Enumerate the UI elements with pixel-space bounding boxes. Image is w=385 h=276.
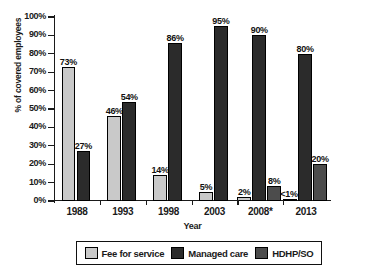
x-axis-category-label: 1993	[100, 206, 146, 217]
y-axis-tick-label: 80%	[8, 49, 46, 58]
bar: <1%	[283, 199, 297, 201]
x-axis-tick	[100, 200, 101, 205]
bar-group: 5%95%	[192, 17, 238, 201]
y-axis-tick-label: 0%	[8, 196, 46, 205]
legend-swatch-icon	[171, 247, 184, 259]
x-axis-category-label: 2013	[283, 206, 329, 217]
bar-value-label: 20%	[312, 155, 329, 164]
bar-value-label: 73%	[60, 58, 77, 67]
bar: 46%	[107, 116, 121, 201]
bar-group: 2%90%8%	[237, 17, 283, 201]
x-axis-category-label: 2003	[192, 206, 238, 217]
bar: 8%	[267, 186, 281, 201]
legend-item[interactable]: HDHP/SO	[255, 247, 313, 259]
bar: 5%	[199, 192, 213, 201]
bar: 73%	[62, 67, 76, 201]
bar: 90%	[252, 35, 266, 201]
x-axis-tick	[192, 200, 193, 205]
bar: 80%	[298, 54, 312, 201]
bar-value-label: 5%	[200, 183, 212, 192]
chart-legend: Fee for serviceManaged careHDHP/SO	[76, 241, 322, 265]
bar-value-label: 46%	[106, 107, 123, 116]
bar-value-label: 54%	[121, 93, 138, 102]
y-axis-tick-label: 70%	[8, 67, 46, 76]
bar: 20%	[313, 164, 327, 201]
bar: 54%	[122, 102, 136, 201]
y-axis-tick-label: 20%	[8, 159, 46, 168]
legend-item[interactable]: Managed care	[171, 247, 248, 259]
bar-group: 46%54%	[100, 17, 146, 201]
bar-value-label: 8%	[268, 177, 280, 186]
bar: 95%	[214, 26, 228, 201]
bar-value-label: 86%	[167, 34, 184, 43]
x-axis-tick	[146, 200, 147, 205]
y-axis-tick-label: 50%	[8, 104, 46, 113]
bar-value-label: 27%	[75, 142, 92, 151]
y-axis-tick-label: 40%	[8, 122, 46, 131]
bar: 27%	[77, 151, 91, 201]
x-axis-tick	[237, 200, 238, 205]
plot-area: 73%27%46%54%14%86%5%95%2%90%8%<1%80%20%	[54, 17, 329, 201]
y-axis-tick-label: 60%	[8, 86, 46, 95]
bar-value-label: 95%	[212, 17, 229, 26]
bar-group: 14%86%	[146, 17, 192, 201]
bar-value-label: 2%	[238, 188, 250, 197]
legend-label: HDHP/SO	[272, 248, 313, 259]
legend-item[interactable]: Fee for service	[85, 247, 165, 259]
bar-value-label: 14%	[152, 166, 169, 175]
y-axis-tick-label: 10%	[8, 178, 46, 187]
legend-label: Fee for service	[102, 248, 165, 259]
y-axis-tick-label: 90%	[8, 30, 46, 39]
bar-group: 73%27%	[54, 17, 100, 201]
bar: 86%	[168, 43, 182, 201]
bar: 2%	[237, 197, 251, 201]
bar-value-label: 80%	[297, 45, 314, 54]
bar-chart: % of covered employees 0%10%20%30%40%50%…	[0, 0, 385, 276]
bar-value-label: 90%	[251, 26, 268, 35]
x-axis-category-label: 1988	[54, 206, 100, 217]
legend-swatch-icon	[255, 247, 268, 259]
x-axis-category-label: 1998	[146, 206, 192, 217]
legend-swatch-icon	[85, 247, 98, 259]
x-axis-category-label: 2008*	[237, 206, 283, 217]
legend-label: Managed care	[188, 248, 248, 259]
y-axis-tick-label: 30%	[8, 141, 46, 150]
y-axis-tick-label: 100%	[8, 12, 46, 21]
bar-group: <1%80%20%	[283, 17, 329, 201]
bar-value-label: <1%	[280, 190, 297, 199]
x-axis-label: Year	[0, 221, 385, 231]
bar: 14%	[153, 175, 167, 201]
x-axis-tick	[283, 200, 284, 205]
